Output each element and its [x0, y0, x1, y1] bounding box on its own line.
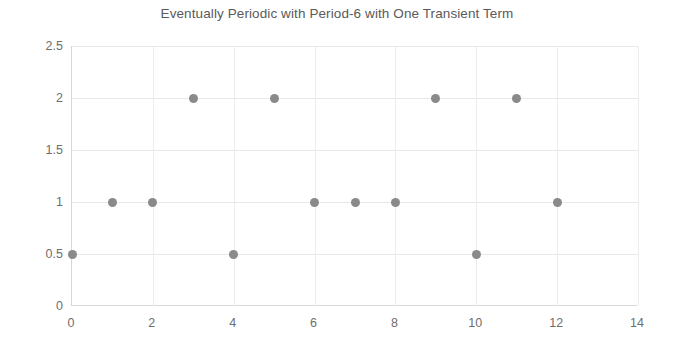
gridline-vertical [153, 46, 154, 306]
x-tick-label: 12 [536, 316, 576, 330]
scatter-point [472, 250, 481, 259]
gridline-vertical [234, 46, 235, 306]
x-tick-label: 14 [617, 316, 657, 330]
gridline-horizontal [72, 150, 638, 151]
gridline-vertical [395, 46, 396, 306]
scatter-point [148, 198, 157, 207]
x-axis-tick-labels: 02468101214 [71, 316, 637, 338]
y-tick-label: 0 [17, 299, 63, 313]
scatter-point [391, 198, 400, 207]
x-tick-label: 0 [51, 316, 91, 330]
scatter-point [310, 198, 319, 207]
chart-title: Eventually Periodic with Period-6 with O… [0, 6, 674, 21]
scatter-point [270, 94, 279, 103]
gridline-horizontal [72, 46, 638, 47]
gridline-horizontal [72, 254, 638, 255]
scatter-point [229, 250, 238, 259]
y-tick-label: 0.5 [17, 247, 63, 261]
gridline-vertical [476, 46, 477, 306]
scatter-point [512, 94, 521, 103]
gridline-vertical [315, 46, 316, 306]
scatter-point [351, 198, 360, 207]
scatter-point [553, 198, 562, 207]
y-tick-label: 2.5 [17, 39, 63, 53]
chart-figure: Eventually Periodic with Period-6 with O… [0, 0, 674, 355]
scatter-point [68, 250, 77, 259]
gridline-vertical [557, 46, 558, 306]
scatter-point [189, 94, 198, 103]
y-tick-label: 2 [17, 91, 63, 105]
scatter-point [431, 94, 440, 103]
x-tick-label: 2 [132, 316, 172, 330]
x-tick-label: 4 [213, 316, 253, 330]
gridline-horizontal [72, 98, 638, 99]
y-tick-label: 1 [17, 195, 63, 209]
y-tick-label: 1.5 [17, 143, 63, 157]
plot-area [71, 46, 637, 306]
x-tick-label: 10 [455, 316, 495, 330]
scatter-point [108, 198, 117, 207]
x-tick-label: 8 [374, 316, 414, 330]
x-tick-label: 6 [294, 316, 334, 330]
gridline-vertical [638, 46, 639, 306]
y-axis-tick-labels: 00.511.522.5 [13, 46, 63, 306]
